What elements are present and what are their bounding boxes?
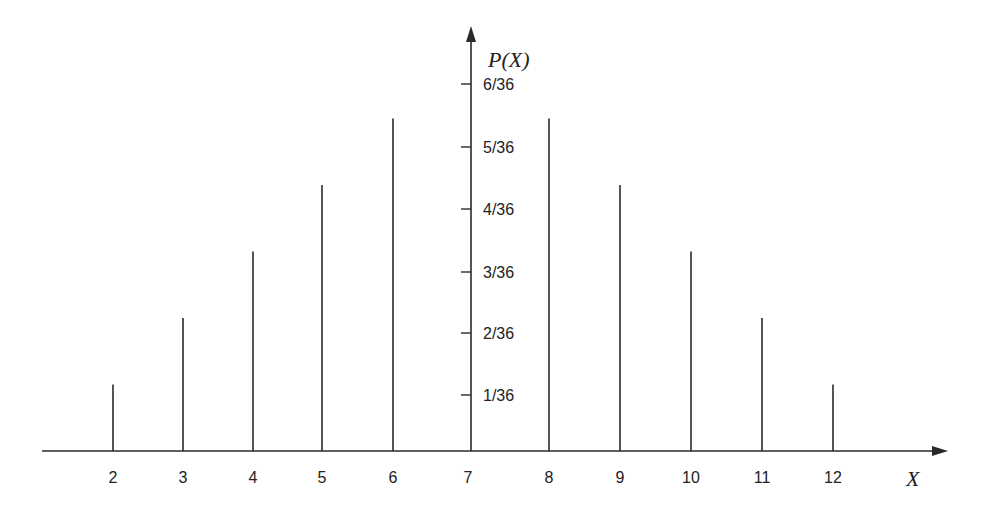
y-tick-label: 1/36 xyxy=(483,387,514,404)
x-axis-arrow-icon xyxy=(932,446,948,456)
x-tick-label: 12 xyxy=(824,469,842,486)
x-tick-label: 5 xyxy=(318,469,327,486)
x-axis-title: X xyxy=(905,466,921,491)
y-ticks: 1/362/363/364/365/366/36 xyxy=(461,76,514,404)
x-tick-label: 9 xyxy=(616,469,625,486)
probability-distribution-chart: 1/362/363/364/365/366/36 23456789101112 … xyxy=(0,0,985,514)
y-tick-label: 4/36 xyxy=(483,201,514,218)
y-tick-label: 3/36 xyxy=(483,264,514,281)
y-tick-label: 6/36 xyxy=(483,76,514,93)
x-tick-label: 4 xyxy=(249,469,258,486)
x-tick-label: 8 xyxy=(545,469,554,486)
x-tick-label: 3 xyxy=(179,469,188,486)
x-tick-label: 2 xyxy=(109,469,118,486)
x-tick-label: 7 xyxy=(464,469,473,486)
x-tick-label: 10 xyxy=(682,469,700,486)
x-tick-label: 11 xyxy=(754,469,771,486)
y-axis-title: P(X) xyxy=(487,47,530,72)
x-ticks: 23456789101112 xyxy=(109,469,842,486)
y-tick-label: 5/36 xyxy=(483,139,514,156)
y-tick-label: 2/36 xyxy=(483,325,514,342)
x-tick-label: 6 xyxy=(389,469,398,486)
stems xyxy=(113,119,833,452)
y-axis-arrow-icon xyxy=(466,26,476,42)
